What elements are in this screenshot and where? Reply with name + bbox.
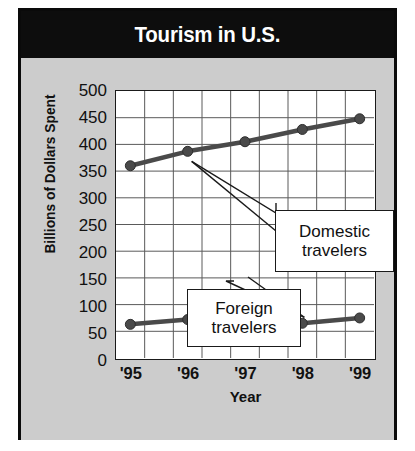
y-tick-label: 100 — [79, 298, 107, 315]
callout-domestic-travelers: Domestic travelers — [275, 210, 394, 272]
y-tick-label: 50 — [88, 325, 107, 342]
y-tick-label: 300 — [79, 190, 107, 207]
chart-figure: Tourism in U.S. Billions of Dollars Spen… — [18, 8, 397, 440]
x-tick-label: '96 — [177, 364, 199, 383]
x-tick-label: '95 — [120, 364, 142, 383]
callout-foreign-travelers: Foreign travelers — [187, 289, 301, 347]
chart-title-bar: Tourism in U.S. — [21, 11, 394, 58]
x-tick-label: '98 — [292, 364, 314, 383]
y-axis-ticks: 500 450 400 350 300 250 200 150 100 50 0 — [49, 90, 107, 360]
y-tick-label: 150 — [79, 271, 107, 288]
callout-line-2: travelers — [302, 241, 367, 260]
x-tick-label: '97 — [234, 364, 256, 383]
callout-line-2: travelers — [211, 318, 276, 337]
y-tick-label: 350 — [79, 163, 107, 180]
y-tick-label: 400 — [79, 136, 107, 153]
y-tick-label: 450 — [79, 109, 107, 126]
callout-line-1: Foreign — [215, 299, 273, 318]
y-tick-label: 0 — [98, 352, 107, 369]
y-tick-label: 250 — [79, 217, 107, 234]
page-title: Tourism in U.S. — [135, 22, 281, 48]
x-tick-label: '99 — [349, 364, 371, 383]
x-axis-label: Year — [115, 388, 376, 405]
callout-line-1: Domestic — [299, 222, 370, 241]
y-tick-label: 500 — [79, 82, 107, 99]
y-tick-label: 200 — [79, 244, 107, 261]
chart-body: Billions of Dollars Spent 500 450 400 35… — [21, 58, 394, 440]
x-axis-ticks: '95 '96 '97 '98 '99 — [115, 364, 376, 390]
